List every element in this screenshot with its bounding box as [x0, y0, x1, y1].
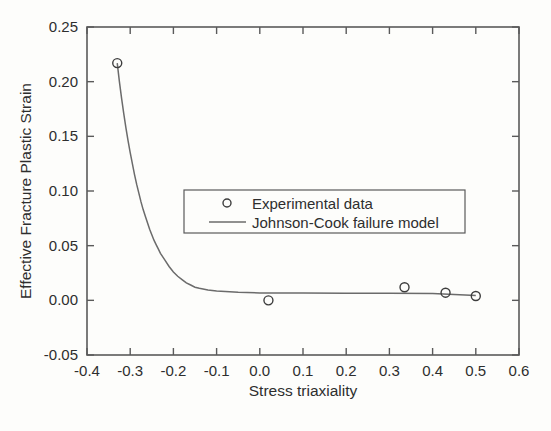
y-tick-label: 0.20 [49, 73, 78, 90]
y-axis-title: Effective Fracture Plastic Strain [17, 83, 34, 299]
y-tick-label: 0.05 [49, 237, 78, 254]
legend-label-experimental-data: Experimental data [252, 195, 374, 212]
x-tick-label: 0.0 [249, 362, 270, 379]
y-tick-label: 0.25 [49, 18, 78, 35]
x-tick-label: 0.1 [293, 362, 314, 379]
y-tick-label: 0.00 [49, 291, 78, 308]
x-tick-label: 0.2 [336, 362, 357, 379]
data-point-marker [441, 288, 450, 297]
y-tick-label: -0.05 [44, 346, 78, 363]
figure-canvas: -0.4-0.3-0.2-0.10.00.10.20.30.40.50.6 -0… [0, 0, 551, 431]
legend-label-johnson-cook: Johnson-Cook failure model [252, 214, 439, 231]
x-axis-title: Stress triaxiality [249, 382, 358, 399]
data-point-marker [400, 283, 409, 292]
x-tick-label: 0.3 [379, 362, 400, 379]
chart-svg: -0.4-0.3-0.2-0.10.00.10.20.30.40.50.6 -0… [0, 0, 551, 431]
y-axis-tick-labels: -0.050.000.050.100.150.200.25 [44, 18, 78, 363]
y-tick-label: 0.15 [49, 127, 78, 144]
data-point-marker [264, 296, 273, 305]
x-axis-tick-labels: -0.4-0.3-0.2-0.10.00.10.20.30.40.50.6 [74, 362, 529, 379]
johnson-cook-curve [117, 63, 476, 295]
x-tick-label: -0.1 [204, 362, 230, 379]
experimental-data-markers [113, 59, 481, 305]
x-tick-label: -0.3 [117, 362, 143, 379]
x-tick-label: 0.5 [465, 362, 486, 379]
x-tick-label: -0.4 [74, 362, 100, 379]
x-tick-label: -0.2 [160, 362, 186, 379]
y-tick-label: 0.10 [49, 182, 78, 199]
legend: Experimental data Johnson-Cook failure m… [184, 190, 465, 233]
x-tick-label: 0.6 [509, 362, 530, 379]
x-tick-label: 0.4 [422, 362, 443, 379]
